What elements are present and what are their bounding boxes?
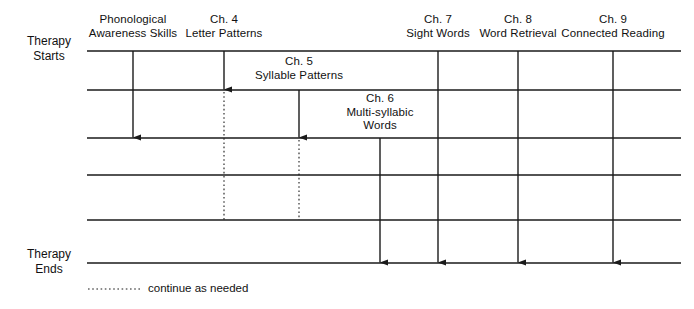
column-label-ch-9-connected-reading: Ch. 9 Connected Reading — [545, 13, 681, 40]
diagram-canvas: Therapy Starts Therapy Ends Phonological… — [0, 0, 694, 309]
legend-label: continue as needed — [148, 282, 248, 294]
horizontal-session-lines — [87, 51, 681, 263]
therapy-ends-label: Therapy Ends — [14, 247, 84, 277]
chapter-arrows — [133, 51, 613, 263]
timeline-diagram-svg — [0, 0, 694, 309]
column-label-ch-6-multi-syllabic-words: Ch. 6 Multi-syllabic Words — [330, 92, 430, 133]
column-label-ch-4-letter-patterns: Ch. 4 Letter Patterns — [172, 13, 276, 40]
column-label-ch-5-syllable-patterns: Ch. 5 Syllable Patterns — [241, 55, 357, 82]
